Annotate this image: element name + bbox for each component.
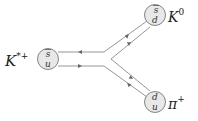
quark-top: d (152, 92, 158, 102)
arrow-icon (78, 64, 82, 68)
quark-bottom: u (45, 59, 51, 69)
quark-bottom: d (152, 15, 158, 25)
quark-line-inner-top (111, 27, 150, 91)
quark-top: s (46, 49, 51, 59)
quark-top: s (154, 5, 159, 15)
quark-bottom: u (152, 102, 158, 112)
flow-arrows (78, 34, 133, 87)
arrow-icon (125, 34, 129, 39)
meson-label: K0 (167, 7, 184, 25)
meson-label: π+ (167, 94, 185, 112)
decay-diagram: s u K*+ s d K0 d u π+ (0, 0, 198, 121)
quark-line-lower (58, 66, 147, 97)
meson-initial: s u K*+ (4, 49, 59, 71)
quark-lines (58, 21, 150, 97)
arrow-icon (78, 50, 82, 54)
meson-final-top: s d K0 (145, 5, 185, 26)
meson-final-bottom: d u π+ (145, 92, 185, 113)
arrow-icon (129, 75, 133, 79)
quark-line-upper (58, 21, 147, 52)
meson-label: K*+ (4, 51, 28, 70)
